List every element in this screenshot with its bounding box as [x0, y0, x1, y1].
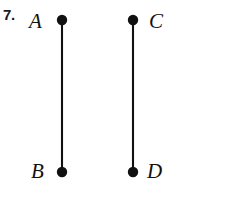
- geometry-figure: 7. A B C D: [0, 0, 245, 208]
- point-label-d: D: [147, 161, 162, 182]
- point-d-dot: [128, 167, 138, 177]
- point-c-dot: [128, 15, 138, 25]
- point-label-a: A: [29, 11, 42, 32]
- point-a-dot: [57, 15, 67, 25]
- point-b-dot: [57, 167, 67, 177]
- point-label-b: B: [31, 161, 44, 182]
- point-label-c: C: [149, 11, 163, 32]
